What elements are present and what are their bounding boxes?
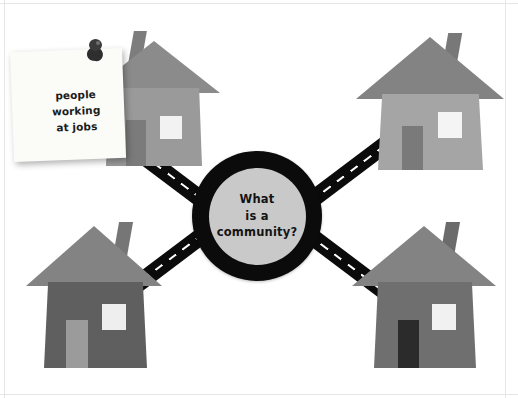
house-window [432, 304, 456, 330]
page-edge-top [0, 3, 518, 4]
community-concept-map: What is a community? people working at j… [0, 0, 518, 398]
roof-shape [356, 34, 504, 99]
house-window [160, 116, 182, 139]
house-body [378, 94, 483, 170]
house-bottom-right [352, 218, 502, 373]
house-door [66, 320, 88, 368]
house-body [374, 282, 476, 368]
house-door [126, 120, 146, 166]
roof-shape [26, 223, 162, 286]
roof-shape [352, 223, 496, 286]
page-edge-left [4, 0, 5, 398]
sticky-note[interactable]: people working at jobs [10, 48, 126, 162]
central-question-text: What is a community? [217, 191, 298, 241]
house-body [44, 282, 147, 368]
house-door [402, 126, 423, 170]
pushpin-shine [96, 41, 100, 45]
house-window [102, 304, 126, 330]
page-edge-bottom [0, 394, 518, 395]
central-question-node: What is a community? [192, 151, 322, 281]
house-bottom-left [26, 218, 166, 373]
pushpin-icon [85, 39, 107, 65]
house-window [438, 112, 462, 138]
sticky-note-text: people working at jobs [35, 73, 102, 136]
house-top-right [356, 28, 508, 173]
central-question-face: What is a community? [209, 168, 306, 265]
house-door [398, 320, 419, 368]
